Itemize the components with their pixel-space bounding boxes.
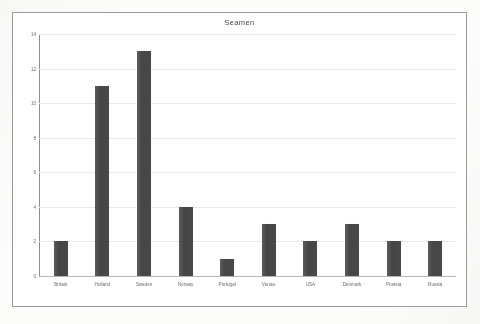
x-axis-tick-label: Britain: [54, 282, 67, 287]
y-axis-tick-label: 10: [31, 101, 36, 106]
y-axis-tick-label: 2: [33, 239, 36, 244]
bar: [262, 224, 276, 276]
bar: [54, 241, 68, 276]
bar: [179, 207, 193, 276]
x-axis-tick-label: Portugal: [219, 282, 236, 287]
x-axis-tick-label: Holland: [95, 282, 111, 287]
bar-slot: USA: [290, 34, 332, 276]
x-axis-tick-label: Sweden: [136, 282, 153, 287]
bar-slot: Sweden: [123, 34, 165, 276]
x-axis-tick-label: Norway: [178, 282, 194, 287]
y-axis-tick-label: 4: [33, 204, 36, 209]
x-axis-tick-label: Venice: [262, 282, 276, 287]
bar: [345, 224, 359, 276]
bar-slot: Norway: [165, 34, 207, 276]
bar-slot: Britain: [40, 34, 82, 276]
chart-title: Seamen: [13, 18, 466, 27]
bar-slot: Venice: [248, 34, 290, 276]
gridline: 0: [39, 276, 456, 277]
x-axis-tick-label: Denmark: [343, 282, 362, 287]
y-axis-tick-label: 6: [33, 170, 36, 175]
bar: [428, 241, 442, 276]
bars-group: BritainHollandSwedenNorwayPortugalVenice…: [40, 34, 456, 276]
bar: [387, 241, 401, 276]
bar: [303, 241, 317, 276]
bar-slot: Holland: [82, 34, 124, 276]
x-axis-tick-label: Russia: [428, 282, 442, 287]
x-axis-tick-label: Prussia: [386, 282, 401, 287]
y-axis-tick-label: 12: [31, 66, 36, 71]
bar-slot: Prussia: [373, 34, 415, 276]
x-axis-tick-label: USA: [306, 282, 315, 287]
bar-slot: Denmark: [331, 34, 373, 276]
bar-slot: Russia: [414, 34, 456, 276]
plot-area: 02468101214 BritainHollandSwedenNorwayPo…: [39, 34, 456, 276]
bar-slot: Portugal: [206, 34, 248, 276]
y-axis-tick-label: 8: [33, 135, 36, 140]
bar: [95, 86, 109, 276]
bar: [137, 51, 151, 276]
y-axis-tick-label: 0: [33, 274, 36, 279]
chart-frame: Seamen 02468101214 BritainHollandSwedenN…: [12, 12, 467, 307]
bar: [220, 259, 234, 276]
y-axis-tick-label: 14: [31, 32, 36, 37]
